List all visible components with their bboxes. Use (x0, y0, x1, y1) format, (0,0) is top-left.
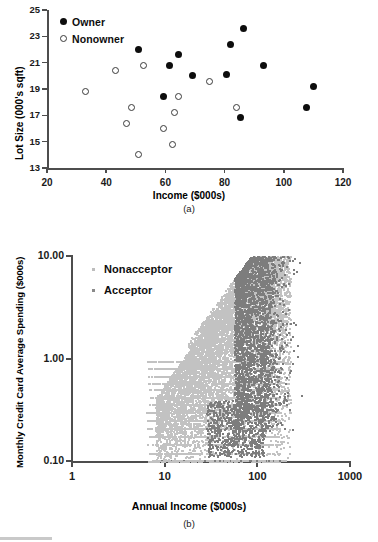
panel-b-x-tick-label: 1 (50, 470, 94, 482)
panel-a-point-nonowner (169, 141, 176, 148)
panel-a-y-tick (42, 115, 47, 117)
panel-a-point-nonowner (171, 109, 178, 116)
panel-a-y-tick-label: 21 (6, 57, 40, 68)
panel-b-x-tick-label: 10 (143, 470, 187, 482)
footer-rule (0, 537, 52, 540)
panel-a-legend: Owner Nonowner (58, 13, 124, 47)
panel-a-point-nonowner (233, 104, 240, 111)
panel-a-point-nonowner (135, 151, 142, 158)
panel-a-point-owner (237, 114, 244, 121)
open-circle-icon (58, 34, 72, 43)
panel-b-point-cloud (70, 251, 360, 466)
panel-a-point-owner (303, 104, 310, 111)
panel-a-x-tick (283, 168, 285, 173)
panel-a-y-tick-label: 23 (6, 30, 40, 41)
panel-a-point-nonowner (82, 88, 89, 95)
panel-a-y-tick-label: 15 (6, 136, 40, 147)
panel-a-point-owner (160, 93, 167, 100)
panel-a-point-nonowner (123, 120, 130, 127)
panel-a-x-tick-label: 60 (145, 177, 185, 188)
legend-label-owner: Owner (72, 16, 105, 28)
panel-a-x-tick (342, 168, 344, 173)
legend-item-owner: Owner (58, 13, 124, 30)
panel-a-y-tick (42, 141, 47, 143)
panel-a-caption: (a) (0, 203, 378, 214)
panel-b-scatter-chart: Monthly Credit Card Average Spending ($0… (0, 215, 378, 542)
panel-a-x-tick-label: 100 (264, 177, 304, 188)
panel-a-x-tick (105, 168, 107, 173)
panel-a-y-tick (42, 62, 47, 64)
panel-a-point-nonowner (175, 93, 182, 100)
legend-item-nonowner: Nonowner (58, 30, 124, 47)
panel-b-x-tick-label: 100 (235, 470, 279, 482)
panel-a-y-axis-line (47, 10, 49, 169)
panel-a-point-owner (166, 62, 173, 69)
panel-a-point-owner (175, 51, 182, 58)
panel-a-point-owner (260, 62, 267, 69)
panel-a-y-tick (42, 36, 47, 38)
panel-a-x-axis-line (47, 168, 343, 170)
panel-a-point-owner (310, 83, 317, 90)
panel-a-y-tick (42, 9, 47, 11)
panel-a-x-tick-label: 120 (323, 177, 363, 188)
panel-a-point-nonowner (112, 67, 119, 74)
filled-circle-icon (58, 17, 72, 26)
panel-a-y-tick-label: 13 (6, 162, 40, 173)
panel-a-x-tick (224, 168, 226, 173)
panel-a-y-tick-label: 25 (6, 4, 40, 15)
panel-a-x-tick-label: 40 (86, 177, 126, 188)
panel-a-point-owner (240, 25, 247, 32)
panel-a-y-tick-label: 19 (6, 83, 40, 94)
panel-a-x-axis-title: Income ($000s) (0, 190, 378, 201)
panel-a-point-owner (227, 41, 234, 48)
legend-label-nonowner: Nonowner (72, 33, 124, 45)
panel-a-point-owner (135, 46, 142, 53)
panel-b-x-axis-title: Annual Income ($000s) (0, 500, 378, 512)
panel-a-point-nonowner (206, 78, 213, 85)
panel-a-y-tick-label: 17 (6, 109, 40, 120)
panel-a-point-nonowner (140, 62, 147, 69)
panel-a-point-owner (223, 71, 230, 78)
panel-b-y-tick-label: 1.00 (22, 352, 64, 364)
panel-a-point-nonowner (160, 125, 167, 132)
panel-a-x-tick-label: 80 (205, 177, 245, 188)
panel-b-caption: (b) (0, 518, 378, 529)
panel-a-x-tick (46, 168, 48, 173)
panel-b-y-tick-label: 10.00 (22, 249, 64, 261)
panel-a-point-owner (189, 72, 196, 79)
panel-b-x-tick-label: 1000 (328, 470, 372, 482)
panel-a-x-tick (165, 168, 167, 173)
panel-a-x-tick-label: 20 (27, 177, 67, 188)
panel-a-scatter-chart: Lot Size (000's sqft) 13151719212325 204… (0, 0, 378, 215)
panel-b-y-tick-label: 0.10 (22, 454, 64, 466)
panel-a-point-nonowner (128, 104, 135, 111)
panel-a-y-tick (42, 88, 47, 90)
